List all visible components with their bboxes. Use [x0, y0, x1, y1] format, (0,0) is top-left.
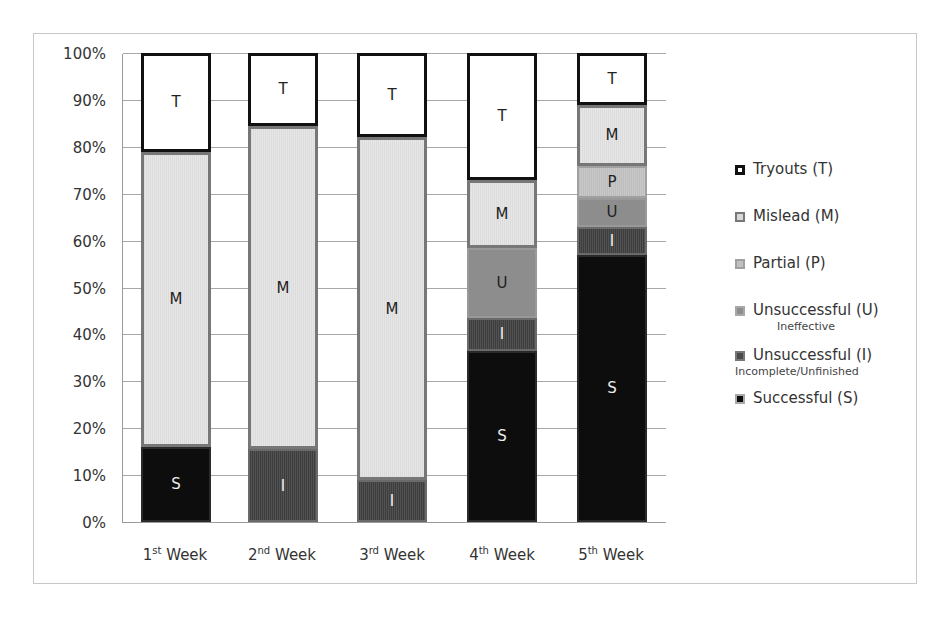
- segment-label: I: [281, 477, 285, 495]
- bar-week-3: IMT: [357, 53, 427, 522]
- bar-week-2: IMT: [248, 53, 318, 522]
- y-tick-label: 10%: [36, 467, 106, 485]
- y-tick-label: 0%: [36, 514, 106, 532]
- segment-t: T: [248, 53, 318, 126]
- segment-u: U: [577, 198, 647, 226]
- segment-label: P: [607, 173, 616, 191]
- segment-label: T: [387, 86, 396, 104]
- segment-t: T: [357, 53, 427, 137]
- y-tick-label: 100%: [36, 45, 106, 63]
- x-label-word: Week: [270, 546, 316, 564]
- legend-label: Unsuccessful (U): [753, 301, 879, 319]
- x-tick-label: 5th Week: [556, 545, 666, 564]
- segment-label: T: [171, 93, 180, 111]
- segment-s: S: [577, 255, 647, 522]
- x-tick-label: 3rd Week: [337, 545, 447, 564]
- segment-t: T: [467, 53, 537, 180]
- segment-i: I: [248, 449, 318, 522]
- legend-swatch-icon: [735, 212, 745, 222]
- segment-label: T: [497, 107, 506, 125]
- x-label-word: Week: [598, 546, 644, 564]
- segment-label: I: [610, 232, 614, 250]
- segment-label: S: [171, 475, 181, 493]
- segment-label: M: [496, 205, 509, 223]
- y-tick-label: 60%: [36, 233, 106, 251]
- legend-swatch-icon: [735, 394, 745, 404]
- y-tick-label: 40%: [36, 326, 106, 344]
- legend-swatch-icon: [735, 351, 745, 361]
- x-label-number: 1: [143, 546, 153, 564]
- legend-swatch-icon: [735, 165, 745, 175]
- x-label-ordinal: rd: [369, 545, 379, 556]
- segment-s: S: [467, 351, 537, 522]
- segment-u: U: [467, 248, 537, 318]
- x-label-number: 4: [469, 546, 479, 564]
- legend-label: Successful (S): [753, 389, 858, 407]
- segment-t: T: [141, 53, 211, 151]
- segment-label: I: [500, 325, 504, 343]
- x-label-word: Week: [161, 546, 207, 564]
- legend-item-t: Tryouts (T): [735, 160, 833, 178]
- segment-label: M: [386, 300, 399, 318]
- x-label-number: 5: [578, 546, 588, 564]
- segment-label: T: [278, 80, 287, 98]
- x-tick-label: 2nd Week: [227, 545, 337, 564]
- segment-label: S: [607, 379, 617, 397]
- legend-item-m: Mislead (M): [735, 207, 839, 225]
- segment-t: T: [577, 53, 647, 105]
- segment-label: T: [607, 70, 616, 88]
- legend-label: Tryouts (T): [753, 160, 833, 178]
- segment-i: I: [357, 480, 427, 522]
- legend-swatch-icon: [735, 259, 745, 269]
- y-tick-label: 90%: [36, 92, 106, 110]
- x-label-ordinal: th: [588, 545, 598, 556]
- plot-area: SMTIMTIMTSIUMTSIUPMT: [122, 54, 666, 523]
- x-label-ordinal: th: [479, 545, 489, 556]
- segment-label: M: [277, 279, 290, 297]
- segment-i: I: [577, 227, 647, 255]
- segment-m: M: [577, 105, 647, 166]
- segment-label: M: [606, 126, 619, 144]
- legend-sublabel: Incomplete/Unfinished: [735, 365, 859, 378]
- legend-label: Unsuccessful (I): [753, 346, 872, 364]
- x-label-word: Week: [489, 546, 535, 564]
- legend-label: Mislead (M): [753, 207, 839, 225]
- x-label-ordinal: nd: [257, 545, 270, 556]
- segment-m: M: [467, 180, 537, 248]
- segment-m: M: [248, 126, 318, 450]
- legend-swatch-icon: [735, 306, 745, 316]
- bar-week-5: SIUPMT: [577, 53, 647, 522]
- bar-week-4: SIUMT: [467, 53, 537, 522]
- x-label-word: Week: [379, 546, 425, 564]
- legend-label: Partial (P): [753, 254, 826, 272]
- segment-label: M: [170, 290, 183, 308]
- y-tick-label: 50%: [36, 280, 106, 298]
- segment-label: S: [497, 427, 507, 445]
- y-tick-label: 70%: [36, 186, 106, 204]
- x-tick-label: 4th Week: [447, 545, 557, 564]
- y-tick-label: 80%: [36, 139, 106, 157]
- segment-m: M: [141, 152, 211, 447]
- segment-label: U: [497, 274, 508, 292]
- legend-sublabel: Ineffective: [777, 320, 835, 333]
- legend-item-s: Successful (S): [735, 389, 858, 407]
- segment-label: I: [390, 492, 394, 510]
- y-tick-label: 30%: [36, 373, 106, 391]
- segment-m: M: [357, 137, 427, 479]
- legend-item-p: Partial (P): [735, 254, 826, 272]
- bar-week-1: SMT: [141, 53, 211, 522]
- segment-s: S: [141, 447, 211, 522]
- y-tick-label: 20%: [36, 420, 106, 438]
- segment-i: I: [467, 318, 537, 351]
- segment-p: P: [577, 166, 647, 199]
- segment-label: U: [607, 203, 618, 221]
- legend-item-u: Unsuccessful (U): [735, 301, 879, 319]
- legend-item-i: Unsuccessful (I): [735, 346, 872, 364]
- x-tick-label: 1st Week: [120, 545, 230, 564]
- x-label-number: 3: [359, 546, 369, 564]
